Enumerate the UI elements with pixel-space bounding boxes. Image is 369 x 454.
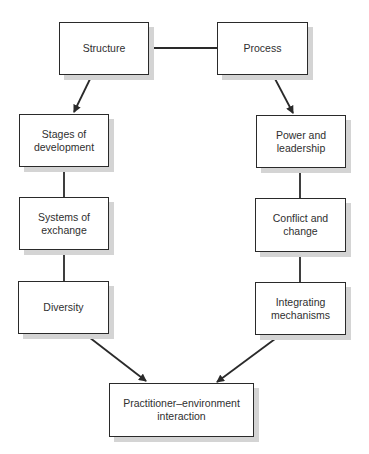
node-systems-of-exchange: Systems of exchange — [19, 197, 109, 250]
node-conflict-and-change: Conflict and change — [255, 198, 346, 252]
node-process: Process — [217, 22, 308, 75]
node-structure: Structure — [59, 22, 149, 75]
arrow-diversity-to-interaction — [85, 334, 146, 381]
node-power-and-leadership: Power and leadership — [256, 115, 346, 168]
arrow-structure-to-stages — [74, 75, 92, 112]
node-practitioner-environment-interaction: Practitioner–environment interaction — [109, 383, 254, 437]
arrow-integrating-to-interaction — [217, 336, 279, 382]
flow-diagram: Structure Process Stages of development … — [0, 0, 369, 454]
arrow-process-to-power — [273, 75, 293, 113]
node-stages-of-development: Stages of development — [19, 114, 109, 167]
node-diversity: Diversity — [18, 281, 109, 334]
node-integrating-mechanisms: Integrating mechanisms — [255, 282, 346, 335]
